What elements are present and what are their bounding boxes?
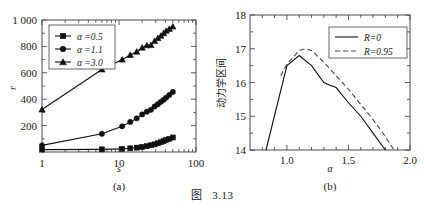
panel-a-legend: α =0.5α =1.1α =3.0 [49, 25, 115, 69]
legend-label: α =3.0 [77, 58, 103, 68]
x-tick-label: 100 [188, 157, 205, 169]
panel-b-ylabel: 动力学区间 [215, 58, 227, 108]
data-marker [134, 145, 139, 150]
caption-number: 3.13 [212, 189, 233, 201]
data-marker [60, 46, 66, 52]
data-marker [170, 89, 175, 94]
y-tick-label: 16 [235, 77, 247, 89]
data-marker [39, 106, 45, 112]
y-tick-label: 15 [235, 110, 247, 122]
legend-label: α =1.1 [77, 45, 103, 55]
data-marker [127, 52, 133, 58]
y-tick-label: 14 [235, 144, 247, 156]
data-marker [170, 23, 176, 29]
panel-a-ylabel: r [7, 86, 18, 90]
panel-a: 1101002004006008001 000 α =0.5α =1.1α =3… [0, 0, 212, 182]
data-marker [134, 116, 139, 121]
y-tick-label: 1 000 [12, 14, 37, 26]
x-tick-label: 1.0 [280, 154, 294, 166]
panel-b-series [266, 49, 394, 150]
data-marker [39, 143, 44, 148]
data-marker [170, 135, 175, 140]
data-marker [120, 146, 125, 151]
series-dashed [281, 49, 394, 150]
x-tick-label: 1.5 [342, 154, 356, 166]
panel-a-xlabel: s [117, 163, 121, 174]
y-tick-label: 800 [21, 40, 38, 52]
series-square [40, 135, 176, 152]
data-marker [99, 147, 104, 152]
panel-b-xlabel: α [327, 163, 333, 174]
y-tick-label: 18 [235, 9, 247, 21]
series-solid [266, 56, 385, 151]
y-tick-label: 17 [235, 43, 247, 55]
x-tick-label: 1 [39, 157, 45, 169]
x-tick-label: 2.0 [403, 154, 417, 166]
panel-b: 1.01.52.01415161718 R=0R=0.95 α 动力学区间 (b… [212, 0, 424, 182]
panel-a-plot: 1101002004006008001 000 α =0.5α =1.1α =3… [0, 0, 212, 182]
panel-b-plot: 1.01.52.01415161718 R=0R=0.95 α 动力学区间 [212, 0, 424, 182]
figure-caption: 图3.13 [0, 186, 424, 202]
legend-label: R=0 [363, 33, 381, 43]
series-polyline [42, 92, 173, 145]
data-marker [128, 119, 133, 124]
data-marker [60, 33, 65, 38]
legend-label: α =0.5 [77, 32, 103, 42]
data-marker [134, 49, 140, 55]
y-tick-label: 200 [21, 120, 38, 132]
data-marker [140, 112, 145, 117]
caption-prefix: 图 [191, 189, 203, 201]
data-marker [119, 56, 125, 62]
legend-label: R=0.95 [363, 47, 393, 57]
y-tick-label: 600 [21, 67, 38, 79]
data-marker [99, 131, 104, 136]
figure-container: 1101002004006008001 000 α =0.5α =1.1α =3… [0, 0, 424, 215]
panel-b-legend: R=0R=0.95 [329, 27, 407, 58]
data-marker [128, 146, 133, 151]
y-tick-label: 400 [21, 93, 38, 105]
data-marker [120, 124, 125, 129]
data-marker [140, 144, 145, 149]
